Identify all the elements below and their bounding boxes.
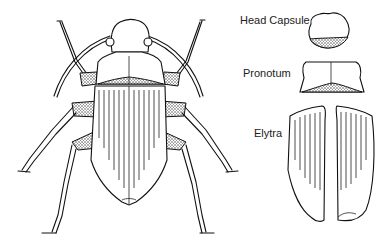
beetle-illustration	[0, 0, 384, 247]
label-elytra: Elytra	[254, 127, 282, 139]
label-pronotum: Pronotum	[243, 67, 291, 79]
beetle-diagram: Head Capsule Pronotum Elytra	[0, 0, 384, 247]
label-head-capsule: Head Capsule	[240, 14, 310, 26]
whole-beetle	[18, 19, 238, 233]
head-capsule-part	[309, 13, 349, 48]
pronotum-part	[300, 62, 364, 92]
elytra-part	[288, 106, 374, 221]
